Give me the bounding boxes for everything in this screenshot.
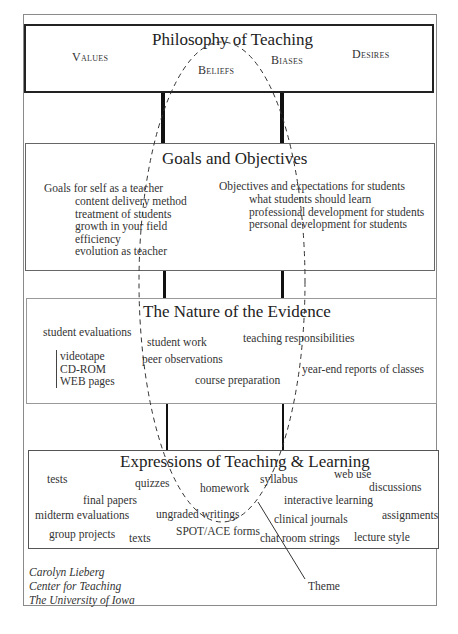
expr-chat-room-strings: chat room strings	[260, 532, 340, 544]
evidence-peer-observations: peer observations	[142, 353, 223, 365]
expr-ungraded-writings: ungraded writings	[156, 508, 239, 520]
goals-self-heading: Goals for self as a teacher	[44, 182, 163, 194]
evidence-teaching-responsibilities: teaching responsibilities	[243, 332, 354, 344]
expr-spot-ace-forms: SPOT/ACE forms	[176, 525, 260, 537]
expr-web-use: web use	[334, 468, 371, 480]
expr-midterm-evaluations: midterm evaluations	[35, 509, 129, 521]
philosophy-biases: Biases	[271, 53, 303, 68]
evidence-year-end-reports: year-end reports of classes	[302, 363, 424, 375]
pillar-right-1	[280, 93, 284, 143]
goals-students-item: what students should learn	[249, 193, 424, 206]
goals-self-item: growth in your field	[75, 220, 187, 233]
evidence-student-work: student work	[147, 336, 207, 348]
expr-interactive-learning: interactive learning	[284, 494, 373, 506]
evidence-media-item: WEB pages	[60, 375, 115, 388]
philosophy-beliefs: Beliefs	[198, 63, 234, 78]
goals-students-heading: Objectives and expectations for students	[219, 180, 405, 192]
evidence-student-evaluations: student evaluations	[43, 326, 131, 338]
evidence-media-item: videotape	[60, 350, 115, 363]
expr-homework: homework	[200, 482, 249, 494]
credit-block: Carolyn Lieberg Center for Teaching The …	[29, 565, 135, 607]
pillar-left-2	[163, 271, 166, 298]
philosophy-box: Philosophy of Teaching Values Beliefs Bi…	[24, 24, 434, 93]
pillar-left-1	[161, 93, 165, 143]
expr-lecture-style: lecture style	[354, 531, 410, 543]
goals-students-item: professional development for students	[249, 206, 424, 219]
evidence-media-list: videotape CD-ROM WEB pages	[56, 350, 115, 388]
evidence-media-item: CD-ROM	[60, 363, 115, 376]
philosophy-title: Philosophy of Teaching	[152, 30, 313, 50]
philosophy-values: Values	[72, 50, 108, 65]
expr-assignments: assignments	[382, 509, 438, 521]
expr-final-papers: final papers	[83, 494, 137, 506]
credit-university: The University of Iowa	[29, 593, 135, 607]
expr-quizzes: quizzes	[135, 477, 169, 489]
expressions-box: Expressions of Teaching & Learning tests…	[28, 450, 439, 549]
pillar-left-3	[166, 404, 168, 450]
goals-students-item: personal development for students	[249, 218, 424, 231]
pillar-right-3	[282, 404, 284, 450]
goals-students-list: what students should learn professional …	[249, 193, 424, 231]
goals-self-item: treatment of students	[75, 208, 187, 221]
goals-self-item: efficiency	[75, 233, 187, 246]
expr-tests: tests	[47, 473, 67, 485]
evidence-course-preparation: course preparation	[195, 374, 280, 386]
expr-group-projects: group projects	[49, 528, 115, 540]
credit-author: Carolyn Lieberg	[29, 565, 135, 579]
theme-label: Theme	[308, 580, 340, 592]
goals-box: Goals and Objectives Goals for self as a…	[25, 143, 435, 271]
goals-title: Goals and Objectives	[162, 149, 307, 169]
expr-texts: texts	[129, 532, 151, 544]
expr-discussions: discussions	[369, 481, 421, 493]
expressions-title: Expressions of Teaching & Learning	[120, 452, 370, 472]
credit-center: Center for Teaching	[29, 579, 135, 593]
expr-syllabus: syllabus	[260, 473, 298, 485]
goals-self-list: content delivery method treatment of stu…	[75, 195, 187, 258]
pillar-right-2	[281, 271, 284, 298]
evidence-title: The Nature of the Evidence	[143, 302, 331, 322]
philosophy-desires: Desires	[352, 47, 389, 62]
goals-self-item: content delivery method	[75, 195, 187, 208]
expr-clinical-journals: clinical journals	[274, 513, 348, 525]
evidence-box: The Nature of the Evidence student evalu…	[26, 298, 437, 404]
goals-self-item: evolution as teacher	[75, 245, 187, 258]
